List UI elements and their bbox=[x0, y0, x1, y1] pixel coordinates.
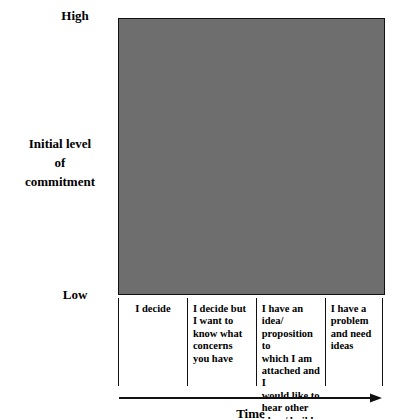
y-axis-title: Initial level of commitment bbox=[2, 134, 118, 191]
column-descriptions: I decide I decide but I want to know wha… bbox=[118, 298, 385, 386]
column-description-1: I decide bbox=[118, 298, 187, 386]
y-axis-high-tick: High bbox=[30, 8, 120, 23]
step-region-4 bbox=[119, 19, 384, 294]
x-axis-title: Time bbox=[118, 406, 383, 419]
column-description-3: I have an idea/ proposition to which I a… bbox=[256, 298, 325, 386]
staircase-plot-area: Best current thinking Creative problem s… bbox=[118, 18, 385, 295]
x-axis-arrow bbox=[118, 392, 383, 404]
column-description-2: I decide but I want to know what concern… bbox=[187, 298, 256, 386]
y-axis-low-tick: Low bbox=[30, 287, 120, 302]
diagram-root: High Initial level of commitment Low Bes… bbox=[0, 0, 397, 419]
column-description-4: I have a problem and need ideas bbox=[325, 298, 383, 386]
